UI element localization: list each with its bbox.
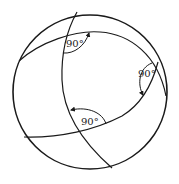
angle-label-bottom: 90°: [81, 116, 99, 127]
great-circle-upper-arc: [19, 32, 166, 96]
angle-label-top: 90°: [66, 38, 84, 49]
angle-label-right: 90°: [138, 68, 156, 79]
diagram-canvas: 90° 90° 90°: [0, 0, 179, 184]
sphere-diagram: 90° 90° 90°: [0, 0, 179, 184]
